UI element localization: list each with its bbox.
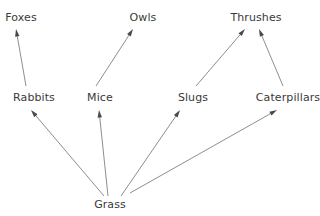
food-web-diagram: FoxesOwlsThrushesRabbitsMiceSlugsCaterpi…: [0, 0, 320, 216]
edge-line: [130, 113, 272, 193]
edge-grass-mice: [98, 110, 108, 196]
edge-grass-slugs: [121, 110, 180, 196]
edge-grass-rabbits: [31, 110, 104, 196]
arrowhead-icon: [98, 110, 102, 118]
node-owls: Owls: [130, 11, 157, 24]
edge-slugs-thrushes: [196, 29, 245, 86]
edge-line: [196, 34, 241, 86]
edge-line: [100, 116, 108, 196]
edge-line: [96, 34, 130, 86]
arrowhead-icon: [259, 29, 264, 37]
arrowhead-icon: [15, 29, 19, 37]
node-grass: Grass: [94, 198, 126, 211]
edge-line: [35, 115, 104, 196]
node-slugs: Slugs: [178, 91, 208, 104]
node-mice: Mice: [87, 91, 113, 104]
node-thrushes: Thrushes: [230, 11, 281, 24]
node-caterpillars: Caterpillars: [256, 91, 320, 104]
arrowhead-icon: [174, 110, 180, 117]
arrowhead-icon: [269, 110, 277, 116]
arrowhead-icon: [127, 29, 133, 36]
edge-layer: [0, 0, 320, 216]
edge-mice-owls: [96, 29, 133, 86]
node-foxes: Foxes: [5, 11, 37, 24]
edge-caterpillars-thrushes: [259, 29, 283, 86]
node-rabbits: Rabbits: [13, 91, 55, 104]
edge-rabbits-foxes: [15, 29, 26, 86]
edge-line: [17, 35, 26, 86]
edge-line: [261, 35, 283, 86]
edge-line: [121, 115, 177, 196]
